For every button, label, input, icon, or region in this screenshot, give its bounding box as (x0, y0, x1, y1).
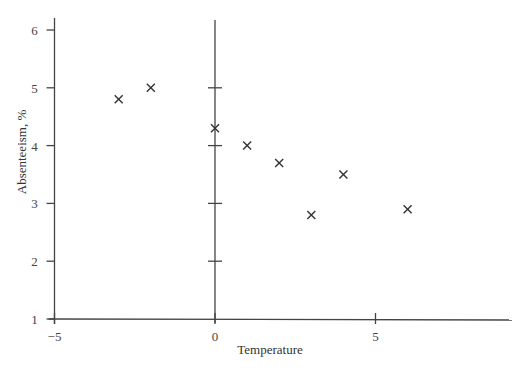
data-points (115, 84, 412, 219)
y-tick-label: 1 (31, 312, 38, 327)
data-point-x-marker (275, 159, 283, 167)
y-tick-label: 4 (31, 139, 38, 154)
y-tick-label: 5 (31, 81, 38, 96)
data-point-x-marker (339, 171, 347, 179)
y-tick-label: 2 (31, 254, 38, 269)
x-tick-label: 5 (372, 329, 379, 344)
y-tick-label: 3 (31, 196, 38, 211)
tick-marks: 123456−505 (31, 23, 379, 344)
data-point-x-marker (307, 211, 315, 219)
data-point-x-marker (404, 205, 412, 213)
x-tick-label: −5 (48, 329, 62, 344)
y-axis-title: Absenteeism, % (14, 110, 29, 195)
x-axis-title: Temperature (237, 342, 303, 357)
axes (49, 18, 513, 324)
x-axis-line (49, 319, 513, 320)
x-tick-label: 0 (212, 329, 219, 344)
scatter-chart: 123456−505 Temperature Absenteeism, % (0, 0, 529, 372)
y-tick-label: 6 (31, 23, 38, 38)
data-point-x-marker (243, 142, 251, 150)
data-point-x-marker (147, 84, 155, 92)
data-point-x-marker (115, 95, 123, 103)
